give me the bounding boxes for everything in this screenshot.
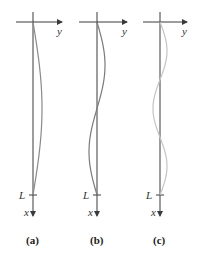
panel-a: y L x (a): [16, 12, 62, 247]
deflection-curve: [33, 22, 42, 195]
y-axis-label: y: [181, 25, 187, 37]
length-label: L: [145, 189, 152, 201]
y-axis-label: y: [56, 25, 62, 37]
x-axis-label: x: [150, 206, 156, 218]
y-axis-label: y: [121, 25, 127, 37]
length-label: L: [82, 189, 89, 201]
panel-caption: (a): [26, 234, 39, 247]
panel-caption: (c): [153, 234, 166, 247]
panel-c: y L x (c): [143, 12, 187, 247]
buckling-mode-diagram: y L x (a) y L x (b) y L x (c): [0, 0, 197, 254]
x-axis-label: x: [87, 206, 93, 218]
x-axis-label: x: [23, 206, 29, 218]
length-label: L: [18, 189, 25, 201]
panel-b: y L x (b): [79, 12, 127, 247]
panel-caption: (b): [90, 234, 104, 247]
